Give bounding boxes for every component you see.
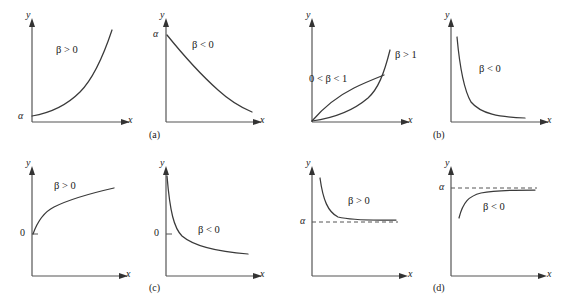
- x-axis-label: x: [408, 115, 412, 125]
- plot-b2: y x β < 0: [437, 12, 563, 130]
- x-axis-label: x: [260, 269, 264, 279]
- curve-label-beta-greater-1: β > 1: [395, 50, 417, 61]
- axes: [29, 166, 128, 279]
- x-axis-label: x: [260, 115, 264, 125]
- curve-label-beta: β < 0: [483, 202, 505, 213]
- curve-label-beta: β < 0: [198, 225, 220, 236]
- curve-label-beta: β < 0: [192, 40, 214, 51]
- curve-label-beta: β > 0: [348, 196, 370, 207]
- panel-label-a: (a): [149, 130, 160, 140]
- curve-power-convex: [312, 50, 390, 121]
- y-axis-label: y: [160, 10, 164, 20]
- curve-label-beta: β > 0: [56, 45, 78, 56]
- y-axis-label: y: [306, 10, 310, 20]
- plot-c2-svg: [152, 160, 276, 286]
- asymptote-label-alpha: α: [439, 182, 444, 192]
- curve-exponential-growth: [32, 30, 112, 116]
- plot-b1-svg: [298, 12, 424, 130]
- y-axis-label: y: [26, 10, 30, 20]
- curve-power-negative: [457, 37, 525, 118]
- x-axis-label: x: [547, 115, 551, 125]
- x-axis-label: x: [126, 269, 130, 279]
- y-axis-label: y: [445, 10, 449, 20]
- plot-d2-svg: [437, 160, 563, 286]
- y-axis-label: y: [160, 158, 164, 168]
- y-axis-label: y: [306, 158, 310, 168]
- y-tick-label-zero: 0: [20, 228, 25, 238]
- plot-a2: y x α β < 0: [152, 12, 272, 130]
- plot-b1: y x 0 < β < 1 β > 1: [298, 12, 424, 130]
- axes: [309, 166, 408, 279]
- y-intercept-label-alpha: α: [153, 29, 158, 39]
- plot-d1: y x α β > 0: [298, 160, 424, 286]
- axes: [448, 166, 547, 279]
- plot-a1: y x α β > 0: [18, 12, 136, 130]
- axes: [163, 18, 262, 125]
- curve-label-beta-between-0-and-1: 0 < β < 1: [309, 74, 347, 85]
- y-axis-label: y: [26, 158, 30, 168]
- x-axis-label: x: [547, 269, 551, 279]
- plot-a2-svg: [152, 12, 272, 130]
- axes: [29, 18, 130, 125]
- plot-d2: y x α β < 0: [437, 160, 563, 286]
- panel-label-d: (d): [433, 283, 445, 293]
- curve-label-beta: β < 0: [479, 64, 501, 75]
- y-intercept-label-alpha: α: [18, 111, 23, 121]
- curve-log-decay: [167, 176, 248, 254]
- y-axis-label: y: [445, 158, 449, 168]
- plot-c1-svg: [18, 160, 138, 286]
- y-tick-label-zero: 0: [154, 228, 159, 238]
- plot-a1-svg: [18, 12, 136, 130]
- plot-c2: y x 0 β < 0: [152, 160, 276, 286]
- x-axis-label: x: [408, 269, 412, 279]
- curve-log-growth: [33, 188, 114, 234]
- x-axis-label: x: [128, 115, 132, 125]
- axes: [163, 166, 262, 279]
- panel-label-b: (b): [433, 130, 445, 140]
- plot-d1-svg: [298, 160, 424, 286]
- panel-label-c: (c): [149, 283, 160, 293]
- plot-c1: y x 0 β > 0: [18, 160, 138, 286]
- curve-label-beta: β > 0: [54, 181, 76, 192]
- asymptote-label-alpha: α: [300, 216, 305, 226]
- figure-canvas: y x α β > 0 y x α β < 0 (a): [0, 0, 573, 298]
